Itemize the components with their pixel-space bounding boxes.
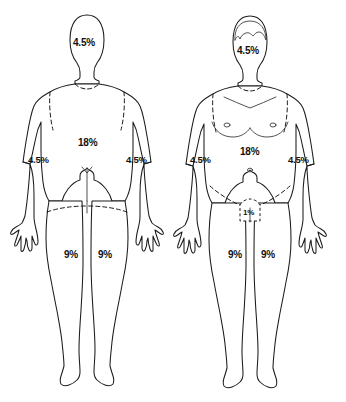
body-figures-illustration xyxy=(0,0,346,402)
front-right-leg-percentage-label: 9% xyxy=(261,250,275,260)
back-left-arm-hand-outline xyxy=(11,162,38,251)
front-genital-percentage-label: 1% xyxy=(243,209,254,217)
front-view-figure xyxy=(174,16,327,388)
front-torso-percentage-label: 18% xyxy=(240,147,259,157)
rule-of-nines-diagram: 4.5% 18% 4.5% 4.5% 9% 9% 4.5% 18% 4.5% 4… xyxy=(0,0,346,402)
back-right-arm-hand-outline xyxy=(136,162,163,251)
front-right-arm-percentage-label: 4.5% xyxy=(288,155,309,165)
back-head-outline xyxy=(70,15,104,84)
front-left-arm-percentage-label: 4.5% xyxy=(190,155,211,165)
back-right-arm-percentage-label: 4.5% xyxy=(126,155,147,165)
front-left-leg-outline xyxy=(209,203,246,388)
front-left-leg-percentage-label: 9% xyxy=(228,250,242,260)
front-torso-outline xyxy=(186,86,314,203)
back-right-leg-percentage-label: 9% xyxy=(98,250,112,260)
front-left-arm-hand-outline xyxy=(174,164,201,253)
front-right-leg-outline xyxy=(254,203,291,388)
back-left-leg-percentage-label: 9% xyxy=(64,250,78,260)
back-head-percentage-label: 4.5% xyxy=(73,38,95,48)
back-right-leg-outline xyxy=(91,201,128,386)
front-head-percentage-label: 4.5% xyxy=(237,46,259,56)
back-left-arm-percentage-label: 4.5% xyxy=(28,155,49,165)
back-torso-percentage-label: 18% xyxy=(78,138,97,148)
back-left-leg-outline xyxy=(46,201,83,386)
front-right-arm-hand-outline xyxy=(299,164,326,253)
back-view-figure xyxy=(11,15,164,386)
